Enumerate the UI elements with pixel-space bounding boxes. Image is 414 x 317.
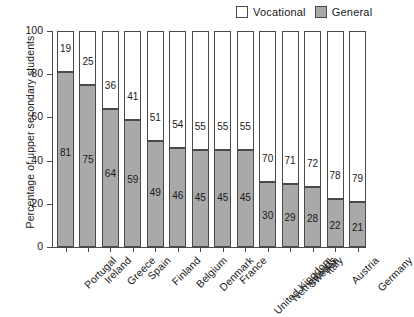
bar-segment-general[interactable]: 28 xyxy=(304,187,321,247)
bar-austria[interactable]: 7822 xyxy=(327,31,344,247)
x-tick-mark xyxy=(88,247,89,252)
bar-value-general: 75 xyxy=(80,154,95,165)
y-tick-label: 60 xyxy=(31,110,43,122)
bar-value-vocational: 78 xyxy=(328,170,343,181)
bar-segment-general[interactable]: 29 xyxy=(282,184,299,247)
bar-value-general: 59 xyxy=(125,174,140,185)
bar-segment-vocational[interactable]: 78 xyxy=(327,31,344,199)
bar-greece[interactable]: 3664 xyxy=(102,31,119,247)
bar-value-vocational: 72 xyxy=(305,158,320,169)
chart-legend: Vocational General xyxy=(236,6,372,18)
bar-segment-vocational[interactable]: 25 xyxy=(79,31,96,85)
bar-value-general: 49 xyxy=(148,187,163,198)
bar-segment-general[interactable]: 45 xyxy=(192,150,209,247)
bar-segment-vocational[interactable]: 71 xyxy=(282,31,299,184)
y-tick-label: 100 xyxy=(25,24,43,36)
y-tick-mark xyxy=(47,247,52,248)
y-tick-label: 40 xyxy=(31,154,43,166)
bar-segment-vocational[interactable]: 72 xyxy=(304,31,321,187)
bar-spain[interactable]: 4159 xyxy=(124,31,141,247)
x-tick-mark xyxy=(155,247,156,252)
bar-segment-vocational[interactable]: 36 xyxy=(102,31,119,109)
x-tick-mark xyxy=(66,247,67,252)
bar-value-general: 30 xyxy=(260,210,275,221)
bar-segment-vocational[interactable]: 41 xyxy=(124,31,141,120)
y-tick-mark xyxy=(47,31,52,32)
x-axis-label-austria: Austria xyxy=(349,254,381,286)
y-tick-mark xyxy=(47,204,52,205)
x-tick-mark xyxy=(133,247,134,252)
bar-value-general: 64 xyxy=(103,168,118,179)
bar-segment-vocational[interactable]: 54 xyxy=(169,31,186,148)
bar-segment-general[interactable]: 81 xyxy=(57,72,74,247)
bar-united-kingdom[interactable]: 5545 xyxy=(237,31,254,247)
bar-value-general: 45 xyxy=(238,192,253,203)
bar-value-vocational: 71 xyxy=(283,155,298,166)
bar-segment-general[interactable]: 45 xyxy=(214,150,231,247)
bar-value-vocational: 36 xyxy=(103,80,118,91)
bar-segment-general[interactable]: 22 xyxy=(327,199,344,247)
plot-area: 0204060801001981257536644159514954465545… xyxy=(52,31,366,247)
bar-value-vocational: 25 xyxy=(80,56,95,67)
bar-segment-vocational[interactable]: 79 xyxy=(349,31,366,202)
bar-denmark[interactable]: 5545 xyxy=(192,31,209,247)
y-tick-label: 80 xyxy=(31,67,43,79)
y-axis-title: Percentage of upper secondary students xyxy=(24,7,36,257)
x-tick-mark xyxy=(200,247,201,252)
y-tick-mark xyxy=(47,74,52,75)
bar-value-vocational: 55 xyxy=(215,121,230,132)
bar-ireland[interactable]: 2575 xyxy=(79,31,96,247)
bar-segment-vocational[interactable]: 55 xyxy=(192,31,209,150)
bar-segment-general[interactable]: 64 xyxy=(102,109,119,247)
bar-belgium[interactable]: 5446 xyxy=(169,31,186,247)
bar-value-vocational: 19 xyxy=(58,43,73,54)
y-tick-mark xyxy=(47,161,52,162)
bar-segment-general[interactable]: 46 xyxy=(169,148,186,247)
bar-segment-general[interactable]: 21 xyxy=(349,202,366,247)
bar-segment-general[interactable]: 30 xyxy=(259,182,276,247)
legend-label-vocational: Vocational xyxy=(253,6,306,18)
bar-finland[interactable]: 5149 xyxy=(147,31,164,247)
bar-value-general: 46 xyxy=(170,190,185,201)
bar-value-general: 45 xyxy=(193,192,208,203)
bar-sweden[interactable]: 7129 xyxy=(282,31,299,247)
bar-segment-vocational[interactable]: 51 xyxy=(147,31,164,141)
bar-value-general: 29 xyxy=(283,212,298,223)
legend-swatch-vocational-icon xyxy=(236,6,248,18)
bar-segment-vocational[interactable]: 70 xyxy=(259,31,276,182)
bar-value-vocational: 55 xyxy=(193,121,208,132)
bar-italy[interactable]: 7228 xyxy=(304,31,321,247)
bar-portugal[interactable]: 1981 xyxy=(57,31,74,247)
bar-value-general: 21 xyxy=(350,222,365,233)
y-tick-label: 20 xyxy=(31,197,43,209)
x-tick-mark xyxy=(223,247,224,252)
legend-swatch-general-icon xyxy=(315,6,327,18)
bar-value-vocational: 79 xyxy=(350,173,365,184)
bar-segment-vocational[interactable]: 55 xyxy=(237,31,254,150)
y-tick-mark xyxy=(47,117,52,118)
bar-segment-general[interactable]: 45 xyxy=(237,150,254,247)
x-tick-mark xyxy=(178,247,179,252)
bar-segment-general[interactable]: 59 xyxy=(124,120,141,247)
bar-segment-vocational[interactable]: 19 xyxy=(57,31,74,72)
legend-item-vocational: Vocational xyxy=(236,6,306,18)
bar-segment-general[interactable]: 49 xyxy=(147,141,164,247)
bar-value-vocational: 54 xyxy=(170,119,185,130)
bar-value-general: 22 xyxy=(328,220,343,231)
legend-item-general: General xyxy=(315,6,373,18)
bar-value-general: 45 xyxy=(215,192,230,203)
x-axis-label-germany: Germany xyxy=(374,254,414,294)
x-tick-mark xyxy=(358,247,359,252)
bar-netherlands[interactable]: 7030 xyxy=(259,31,276,247)
bar-segment-vocational[interactable]: 55 xyxy=(214,31,231,150)
bar-value-general: 28 xyxy=(305,213,320,224)
bar-france[interactable]: 5545 xyxy=(214,31,231,247)
x-tick-mark xyxy=(313,247,314,252)
bar-value-vocational: 51 xyxy=(148,112,163,123)
bar-germany[interactable]: 7921 xyxy=(349,31,366,247)
bar-value-general: 81 xyxy=(58,147,73,158)
legend-label-general: General xyxy=(332,6,373,18)
bar-segment-general[interactable]: 75 xyxy=(79,85,96,247)
bar-value-vocational: 41 xyxy=(125,91,140,102)
x-tick-mark xyxy=(110,247,111,252)
